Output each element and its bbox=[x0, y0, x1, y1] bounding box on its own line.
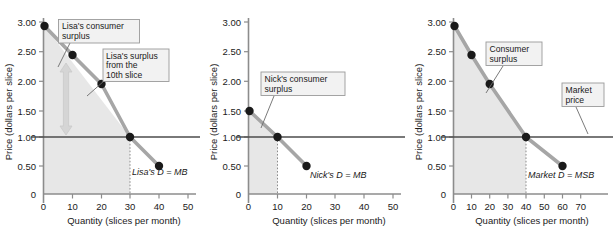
y-axis-title: Price (dollars per slice) bbox=[3, 64, 14, 161]
x-tick-label: 10 bbox=[67, 201, 78, 212]
y-tick-label: 2.00 bbox=[428, 76, 447, 87]
data-point bbox=[522, 133, 530, 141]
x-tick-label: 20 bbox=[484, 201, 495, 212]
x-tick-label: 0 bbox=[246, 201, 251, 212]
x-tick-label: 60 bbox=[557, 201, 568, 212]
y-tick-label: 3.00 bbox=[18, 17, 37, 28]
y-axis-title: Price (dollars per slice) bbox=[208, 64, 219, 161]
y-tick-label: 2.50 bbox=[223, 46, 242, 57]
y-tick-label: 0 bbox=[441, 189, 446, 200]
data-point bbox=[273, 133, 281, 141]
x-tick-label: 10 bbox=[466, 201, 477, 212]
x-tick-label: 30 bbox=[125, 201, 136, 212]
y-tick-label: 3.00 bbox=[223, 17, 242, 28]
x-tick-label: 70 bbox=[575, 201, 586, 212]
data-point bbox=[558, 162, 566, 170]
x-tick-label: 30 bbox=[330, 201, 341, 212]
x-tick-label: 50 bbox=[539, 201, 550, 212]
x-tick-label: 0 bbox=[41, 201, 46, 212]
callout-leader-line bbox=[576, 107, 588, 134]
x-axis-title: Quantity (slices per month) bbox=[67, 215, 181, 226]
callout-line: Nick's consumer bbox=[265, 74, 328, 84]
data-point bbox=[302, 162, 310, 170]
callout-line: Market bbox=[566, 85, 593, 95]
x-tick-label: 40 bbox=[154, 201, 165, 212]
x-tick-label: 30 bbox=[503, 201, 514, 212]
y-tick-label: 0.50 bbox=[18, 161, 37, 172]
y-tick-label: 0 bbox=[236, 189, 241, 200]
data-point bbox=[245, 107, 253, 115]
surplus-shade-lower-nick bbox=[249, 137, 278, 194]
callout-line: 10th slice bbox=[106, 70, 143, 80]
data-point bbox=[68, 51, 76, 59]
callout-line: surplus bbox=[265, 84, 293, 94]
curve-label-market: Market D = MSB bbox=[528, 170, 594, 180]
chart-svg-nick: 3.00 2.50 2.00 1.50 1.00 0.50 0 0 10 20 … bbox=[205, 0, 410, 232]
curve-label-lisa: Lisa's D = MB bbox=[132, 167, 188, 177]
chart-panel-nick: 3.00 2.50 2.00 1.50 1.00 0.50 0 0 10 20 … bbox=[205, 0, 410, 232]
callout-line: price bbox=[566, 95, 585, 105]
x-axis-title: Quantity (slices per month) bbox=[272, 215, 386, 226]
y-tick-label: 0.50 bbox=[428, 161, 447, 172]
callout-line: from the bbox=[106, 60, 138, 70]
chart-svg-lisa: 3.00 2.50 2.00 1.50 1.00 0.50 0 0 10 20 … bbox=[0, 0, 205, 232]
callout-line: Consumer bbox=[490, 44, 530, 54]
data-point bbox=[40, 22, 48, 30]
curve-label-nick: Nick's D = MB bbox=[310, 170, 366, 180]
surplus-shade-lower-market bbox=[454, 137, 527, 194]
y-tick-label: 2.00 bbox=[223, 76, 242, 87]
y-tick-label: 0.50 bbox=[223, 161, 242, 172]
y-tick-label: 1.50 bbox=[223, 106, 242, 117]
callout-line: surplus bbox=[490, 54, 518, 64]
x-tick-label: 40 bbox=[521, 201, 532, 212]
y-tick-label: 2.50 bbox=[428, 46, 447, 57]
chart-panel-market: 3.00 2.50 2.00 1.50 1.00 0.50 0 0 10 20 … bbox=[410, 0, 616, 232]
y-tick-label: 0 bbox=[31, 189, 36, 200]
x-tick-label: 50 bbox=[183, 201, 194, 212]
x-axis-title: Quantity (slices per month) bbox=[475, 215, 589, 226]
y-tick-label: 1.50 bbox=[428, 106, 447, 117]
y-tick-label: 2.00 bbox=[18, 76, 37, 87]
callout-line: Lisa's surplus bbox=[106, 51, 158, 61]
x-tick-label: 10 bbox=[272, 201, 283, 212]
callout-line: Lisa's consumer bbox=[62, 21, 124, 31]
x-tick-label: 40 bbox=[359, 201, 370, 212]
data-point bbox=[450, 22, 458, 30]
y-tick-label: 2.50 bbox=[18, 46, 37, 57]
data-point bbox=[126, 133, 134, 141]
chart-svg-market: 3.00 2.50 2.00 1.50 1.00 0.50 0 0 10 20 … bbox=[410, 0, 616, 232]
y-tick-label: 3.00 bbox=[428, 17, 447, 28]
consumer-surplus-figure: 3.00 2.50 2.00 1.50 1.00 0.50 0 0 10 20 … bbox=[0, 0, 616, 232]
x-tick-label: 20 bbox=[96, 201, 107, 212]
x-tick-label: 50 bbox=[388, 201, 399, 212]
y-tick-label: 1.50 bbox=[18, 106, 37, 117]
chart-panel-lisa: 3.00 2.50 2.00 1.50 1.00 0.50 0 0 10 20 … bbox=[0, 0, 205, 232]
y-axis-title: Price (dollars per slice) bbox=[413, 64, 424, 161]
data-point bbox=[467, 51, 475, 59]
surplus-shade-lower-lisa bbox=[44, 137, 131, 194]
x-tick-label: 0 bbox=[451, 201, 456, 212]
callout-line: surplus bbox=[62, 31, 90, 41]
x-tick-label: 20 bbox=[301, 201, 312, 212]
callout-leader-line bbox=[261, 96, 274, 128]
